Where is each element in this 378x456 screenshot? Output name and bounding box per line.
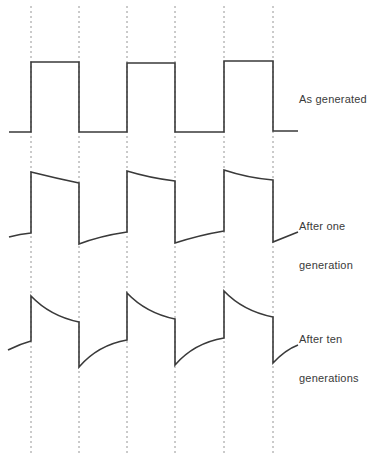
label-after-one-generation: After one generation <box>299 194 353 285</box>
waveform-as-generated <box>9 61 298 132</box>
dashed-time-markers <box>31 6 273 456</box>
label-line: After ten <box>299 333 359 346</box>
label-line: generation <box>299 259 353 272</box>
waveform-after-ten-generations <box>8 291 298 367</box>
label-line: As generated <box>299 93 367 106</box>
label-after-ten-generations: After ten generations <box>299 307 359 398</box>
label-as-generated: As generated <box>299 67 367 119</box>
label-line: After one <box>299 220 353 233</box>
label-line: generations <box>299 372 359 385</box>
waveform-after-one-generation <box>9 170 298 244</box>
